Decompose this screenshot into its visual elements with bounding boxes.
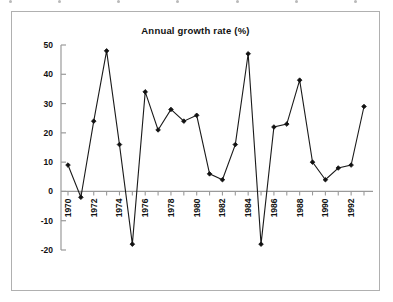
x-tick-label: 1974 [114,198,124,217]
x-tick-label: 1972 [89,198,99,217]
scan-artifact-strip [0,0,393,5]
x-tick-label: 1984 [243,198,253,217]
data-point-marker [246,51,251,56]
x-tick-label: 1982 [217,198,227,217]
x-axis: 1970197219741976197819801982198419861988… [61,191,373,217]
y-tick-label: -20 [41,245,54,255]
x-tick-label: 1986 [269,198,279,217]
data-point-marker [220,177,225,182]
y-axis: 50403020100-10-20 [41,40,66,255]
y-tick-label: 10 [44,157,54,167]
x-tick-label: 1970 [63,198,73,217]
y-tick-label: -10 [41,216,54,226]
data-point-marker [207,172,212,177]
y-tick-label: 0 [48,186,53,196]
data-point-marker [349,163,354,168]
data-point-marker [66,163,71,168]
data-point-marker [259,242,264,247]
data-point-marker [297,78,302,83]
data-point-marker [91,119,96,124]
data-point-marker [130,242,135,247]
x-tick-label: 1980 [192,198,202,217]
data-point-marker [117,142,122,147]
y-tick-label: 40 [44,69,54,79]
y-tick-label: 30 [44,99,54,109]
chart-plot-area: 50403020100-10-20 1970197219741976197819… [12,12,379,290]
x-tick-label: 1976 [140,198,150,217]
x-tick-label: 1992 [346,198,356,217]
data-point-marker [362,104,367,109]
y-tick-label: 50 [44,40,54,50]
data-point-marker [79,195,84,200]
data-point-marker [104,49,109,54]
y-tick-label: 20 [44,128,54,138]
data-point-marker [194,113,199,118]
x-tick-label: 1990 [320,198,330,217]
x-tick-label: 1988 [295,198,305,217]
data-point-marker [272,125,277,130]
x-tick-label: 1978 [166,198,176,217]
data-point-marker [143,90,148,95]
data-point-marker [284,122,289,127]
data-point-marker [233,142,238,147]
chart-frame: Annual growth rate (%) 50403020100-10-20… [11,11,380,291]
chart-page: Annual growth rate (%) 50403020100-10-20… [0,0,393,302]
